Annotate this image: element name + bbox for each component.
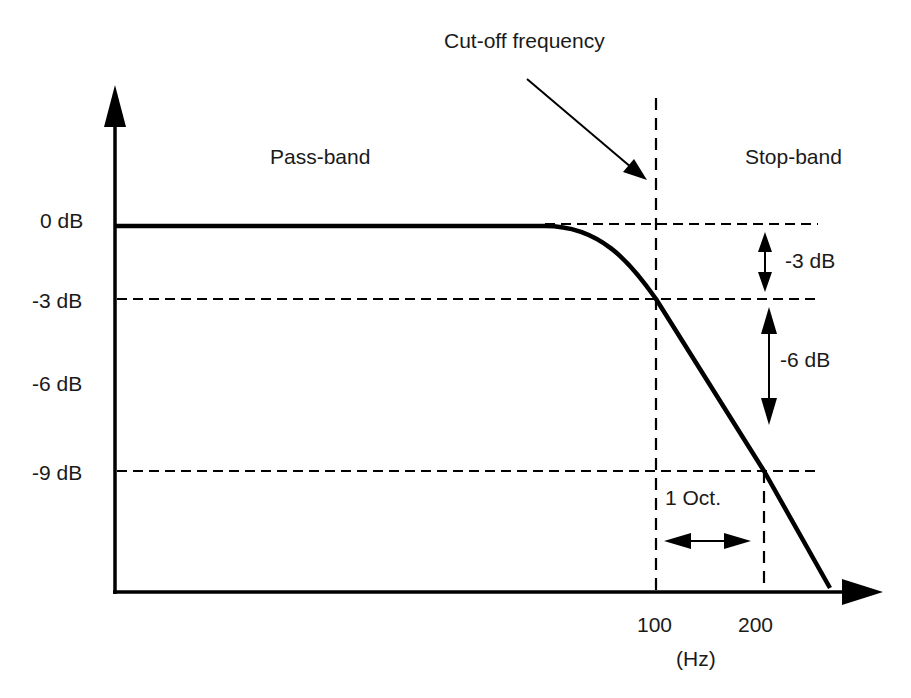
minus3db-double-arrow-icon <box>758 232 772 292</box>
octave-annotation: 1 Oct. <box>665 487 721 508</box>
y-tick-minus3db: -3 dB <box>32 290 82 311</box>
y-tick-minus6db: -6 dB <box>32 373 82 394</box>
x-tick-100: 100 <box>637 614 672 635</box>
minus6db-annotation: -6 dB <box>780 349 830 370</box>
x-unit-label: (Hz) <box>676 648 716 669</box>
filter-response-diagram <box>0 0 911 698</box>
y-axis-arrow-icon <box>104 85 126 127</box>
minus3db-annotation: -3 dB <box>785 250 835 271</box>
pass-band-label: Pass-band <box>270 146 370 167</box>
horizontal-guide-lines <box>117 224 818 471</box>
cutoff-pointer <box>527 79 647 180</box>
octave-double-arrow-icon <box>664 533 751 549</box>
y-tick-minus9db: -9 dB <box>32 462 82 483</box>
y-tick-0db: 0 dB <box>40 210 83 231</box>
x-tick-200: 200 <box>738 614 773 635</box>
vertical-guide-lines <box>656 98 764 590</box>
response-curve <box>115 226 830 588</box>
stop-band-label: Stop-band <box>745 146 842 167</box>
minus6db-double-arrow-icon <box>761 307 777 425</box>
x-axis-arrow-icon <box>842 579 883 605</box>
cutoff-frequency-label: Cut-off frequency <box>444 30 605 51</box>
